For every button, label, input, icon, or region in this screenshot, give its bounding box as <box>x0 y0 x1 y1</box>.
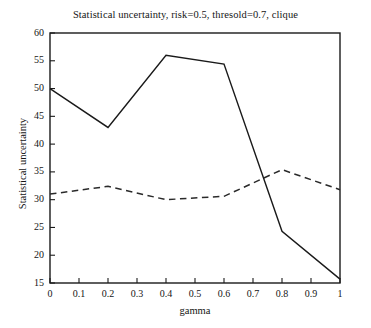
y-tick-label: 40 <box>18 138 44 149</box>
x-tick-label: 0.6 <box>209 288 239 299</box>
y-tick-label: 25 <box>18 221 44 232</box>
x-axis-label: gamma <box>50 305 340 316</box>
chart-title: Statistical uncertainty, risk=0.5, thres… <box>0 9 371 20</box>
x-tick-label: 0.8 <box>267 288 297 299</box>
y-tick-label: 30 <box>18 193 44 204</box>
x-tick-label: 0.1 <box>64 288 94 299</box>
y-tick-label: 55 <box>18 54 44 65</box>
x-tick-label: 0.9 <box>296 288 326 299</box>
y-tick-label: 15 <box>18 277 44 288</box>
plot-frame <box>50 33 340 283</box>
x-tick-label: 1 <box>325 288 355 299</box>
y-tick-label: 60 <box>18 27 44 38</box>
y-axis-label: Statistical uncertainty <box>17 84 28 244</box>
y-tick-label: 35 <box>18 165 44 176</box>
plot-area <box>0 0 371 328</box>
x-tick-label: 0.5 <box>180 288 210 299</box>
y-tick-label: 50 <box>18 82 44 93</box>
y-tick-label: 20 <box>18 249 44 260</box>
x-tick-label: 0.7 <box>238 288 268 299</box>
x-tick-label: 0.2 <box>93 288 123 299</box>
x-tick-label: 0.4 <box>151 288 181 299</box>
x-tick-label: 0.3 <box>122 288 152 299</box>
chart-figure: Statistical uncertainty, risk=0.5, thres… <box>0 0 371 328</box>
y-tick-label: 45 <box>18 110 44 121</box>
x-tick-label: 0 <box>35 288 65 299</box>
